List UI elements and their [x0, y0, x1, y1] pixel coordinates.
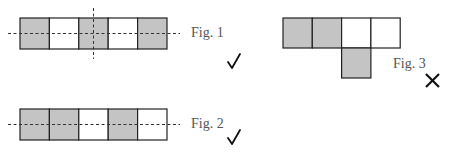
diagram-canvas	[0, 0, 450, 153]
fig3-cell-1	[283, 18, 312, 48]
figure-1	[8, 8, 180, 59]
fig3-cell-4	[371, 18, 400, 48]
fig1-cell-1	[20, 18, 49, 49]
fig3-cross-icon	[426, 74, 439, 87]
fig3-cell-2	[312, 18, 341, 48]
fig1-check-icon	[228, 54, 240, 68]
fig3-cell-bottom	[342, 48, 371, 78]
fig1-label: Fig. 1	[191, 25, 224, 41]
fig3-label: Fig. 3	[393, 56, 426, 72]
fig2-cell-1	[20, 109, 49, 140]
figure-3	[283, 18, 400, 78]
fig2-label: Fig. 2	[191, 116, 224, 132]
fig2-check-icon	[228, 130, 240, 144]
fig3-cell-3	[342, 18, 371, 48]
figure-2	[8, 109, 180, 140]
